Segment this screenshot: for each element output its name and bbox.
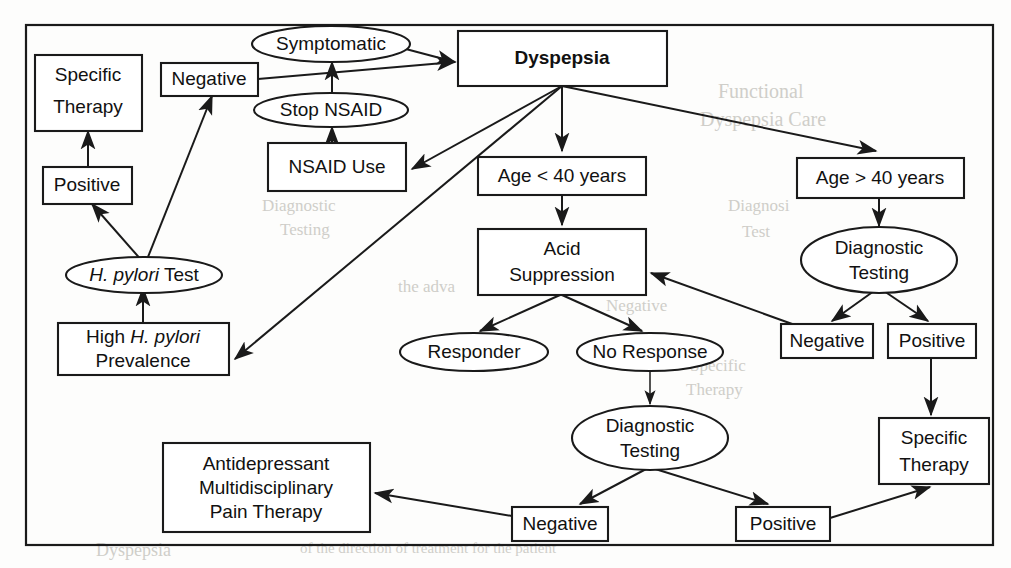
node-label: Acid [544,238,581,259]
node-age-over-40[interactable]: Age > 40 years [797,158,964,198]
edge-hpyloritest-positive [92,204,143,262]
node-label: Positive [54,174,121,195]
node-label: Therapy [899,454,969,475]
node-label: Prevalence [95,350,190,371]
node-label: Diagnostic [606,415,695,436]
node-high-prevalence[interactable]: High H. pylori Prevalence [58,323,229,375]
node-label: Testing [620,440,680,461]
node-positive-left[interactable]: Positive [43,167,132,204]
edge-negative-dyspepsia [258,62,455,79]
node-label: Age < 40 years [498,165,626,186]
node-positive-right[interactable]: Positive [888,324,976,358]
edge-dyspepsia-ageover40 [562,86,876,151]
node-label: Antidepressant [203,453,330,474]
node-acid-suppression[interactable]: Acid Suppression [478,229,646,295]
node-label: Age > 40 years [816,167,944,188]
node-label: NSAID Use [288,156,385,177]
node-label: Negative [523,513,598,534]
node-label: Therapy [53,96,123,117]
node-label: Testing [849,262,909,283]
node-label: High H. pylori [86,326,201,347]
node-specific-therapy-left[interactable]: Specific Therapy [35,55,142,131]
flowchart-svg: Specific Therapy Positive H. pylori Test… [0,0,1011,568]
edge-diagnostictesting-positive [652,468,768,504]
edge-diagnostictesting-negative [580,468,648,504]
node-label: Positive [899,330,966,351]
edge-negative-antidepressant [375,493,512,516]
node-age-under-40[interactable]: Age < 40 years [478,157,646,195]
node-label: Responder [428,341,522,362]
edge-hpyloritest-negative [146,96,212,262]
node-label: Symptomatic [276,33,386,54]
node-positive-bottom[interactable]: Positive [736,507,830,541]
edge-dyspepsia-highprevalence [235,86,562,359]
node-label: Negative [790,330,865,351]
node-specific-therapy-right[interactable]: Specific Therapy [879,418,989,484]
node-dyspepsia[interactable]: Dyspepsia [458,31,667,86]
node-label: No Response [592,341,707,362]
node-label: Multidisciplinary [199,477,334,498]
node-diagnostic-testing-right[interactable]: Diagnostic Testing [801,227,957,293]
node-label: Positive [750,513,817,534]
node-no-response[interactable]: No Response [577,333,723,371]
node-label: Stop NSAID [280,99,382,120]
edge-diagnostictesting-positive-right [884,291,928,321]
node-nsaid-use[interactable]: NSAID Use [268,143,406,191]
node-symptomatic[interactable]: Symptomatic [252,26,410,62]
node-label: Specific [55,64,122,85]
edge-negativeright-acidsuppression [651,273,795,325]
node-label: Diagnostic [835,237,924,258]
node-negative-top[interactable]: Negative [161,63,258,96]
node-label: Suppression [509,264,615,285]
node-label: Specific [901,427,968,448]
node-label: Pain Therapy [210,501,323,522]
edge-symptomatic-dyspepsia [402,48,455,62]
edge-acidsuppression-noresponse [562,295,642,331]
node-diagnostic-testing-center[interactable]: Diagnostic Testing [572,406,728,470]
node-responder[interactable]: Responder [400,333,548,371]
node-label: Negative [172,68,247,89]
node-hpylori-test[interactable]: H. pylori Test [66,257,222,293]
node-stop-nsaid[interactable]: Stop NSAID [254,93,408,127]
figure-canvas: Functional Dyspepsia Care Diagnosi Test … [0,0,1011,568]
edge-positive-specifictherapy-right [830,487,930,518]
node-antidepressant[interactable]: Antidepressant Multidisciplinary Pain Th… [163,443,370,532]
node-label: Dyspepsia [514,47,609,68]
edge-acidsuppression-responder [480,295,560,331]
node-label: H. pylori Test [89,264,199,285]
node-negative-right[interactable]: Negative [781,324,873,358]
node-negative-bottom[interactable]: Negative [512,507,608,541]
edge-diagnostictesting-negative-right [832,291,874,321]
